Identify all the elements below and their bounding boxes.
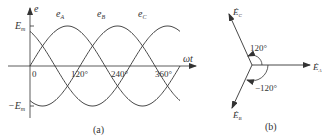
tick-240: 240° (111, 69, 129, 79)
phasor-label-EA: ĖA (312, 62, 323, 73)
arc-neg120 (247, 65, 268, 81)
caption-b: (b) (265, 121, 277, 133)
phasor-panel: 120° −120° ĖA ĖC ĖB (b) (229, 7, 323, 133)
curve-label-eA: eA (56, 8, 64, 20)
angle-label-neg120: −120° (255, 83, 278, 93)
three-phase-figure: e ωt Em −Em 0 120° 240° 360° eA eB eC (a… (0, 0, 328, 140)
curve-label-eC: eC (138, 8, 147, 20)
curve-label-eB: eB (97, 8, 105, 20)
waveform-panel: e ωt Em −Em 0 120° 240° 360° eA eB eC (a… (8, 3, 196, 136)
angle-label-120: 120° (250, 43, 268, 53)
neg-amplitude-label: −Em (8, 100, 26, 112)
origin-label: 0 (32, 69, 37, 79)
y-axis-label: e (34, 3, 39, 14)
phasor-EC (229, 14, 252, 65)
x-axis-label: ωt (183, 53, 193, 64)
tick-360: 360° (155, 69, 173, 79)
tick-120: 120° (71, 69, 89, 79)
amplitude-label: Em (14, 20, 26, 32)
phasor-label-EC: ĖC (232, 7, 243, 18)
phasor-EB (232, 65, 252, 108)
caption-a: (a) (93, 124, 104, 136)
phasor-label-EB: ĖB (232, 110, 242, 121)
